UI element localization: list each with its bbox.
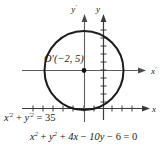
eq-std-op4: − xyxy=(107,131,113,142)
eq-primed-term1-sup: ′2 xyxy=(9,110,14,117)
eq-std-term1: x2 xyxy=(30,131,38,142)
eq-std-term2: y2 xyxy=(49,131,57,142)
x-axis-label: x xyxy=(151,104,156,114)
eq-std-op3: − xyxy=(81,131,87,142)
center-coordinates: (−2, 5) xyxy=(54,53,84,64)
y-prime-axis-arrow-icon xyxy=(82,14,88,22)
y-axis-arrow-icon xyxy=(101,14,107,22)
center-point-dot xyxy=(82,68,87,73)
eq-std-rhs: 0 xyxy=(132,131,137,142)
eq-primed-term2-sup: ′2 xyxy=(29,110,34,117)
eq-std-term4: 10y xyxy=(89,131,104,142)
eq-std-op2: + xyxy=(60,131,66,142)
x-prime-axis-label: x′ xyxy=(150,66,157,76)
coordinate-diagram-svg: y′ y x′ x xyxy=(0,0,165,148)
eq-primed-equals: = xyxy=(36,112,42,123)
eq-std-term5: 6 xyxy=(116,131,121,142)
eq-primed-rhs: 35 xyxy=(45,112,56,123)
y-prime-axis-label: y′ xyxy=(70,4,77,14)
x-prime-axis-arrow-icon xyxy=(138,68,146,74)
center-point-name: O′ xyxy=(44,53,54,64)
equation-primed: x′2 + y′2 = 35 xyxy=(4,111,56,123)
eq-primed-plus: + xyxy=(16,112,22,123)
eq-std-term1-sup: 2 xyxy=(35,129,38,136)
figure-container: y′ y x′ x O′(−2, 5) x′2 + y′2 = 35 x2 + … xyxy=(0,0,165,148)
eq-std-term3: 4x xyxy=(68,131,78,142)
x-axis-arrow-icon xyxy=(142,106,150,112)
center-point-label: O′(−2, 5) xyxy=(44,54,84,65)
eq-primed-term1: x′2 xyxy=(4,112,13,123)
eq-primed-term2: y′2 xyxy=(25,112,34,123)
equation-standard: x2 + y2 + 4x − 10y − 6 = 0 xyxy=(30,130,137,142)
eq-std-equals: = xyxy=(124,131,130,142)
y-axis-label: y xyxy=(95,4,100,14)
eq-std-op1: + xyxy=(41,131,47,142)
eq-std-term2-sup: 2 xyxy=(54,129,57,136)
